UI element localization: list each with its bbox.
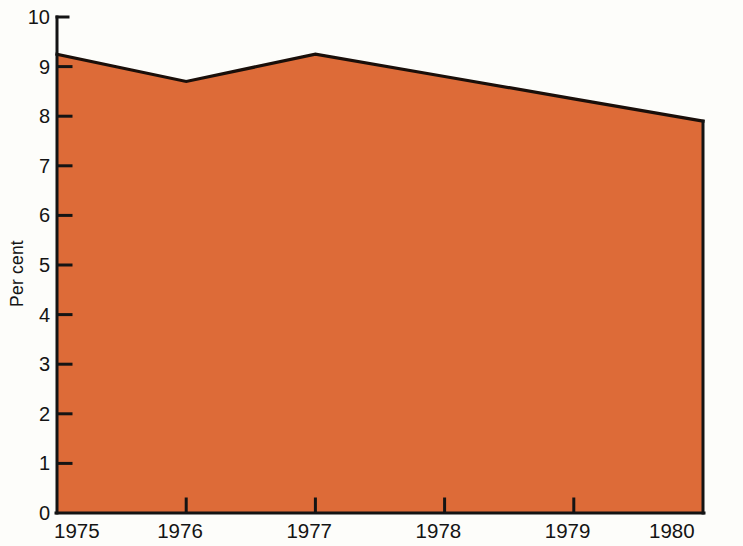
area-plot	[0, 0, 743, 546]
area-fill-shape	[57, 54, 703, 513]
chart-figure: Per cent 012345678910 197519761977197819…	[0, 0, 743, 546]
